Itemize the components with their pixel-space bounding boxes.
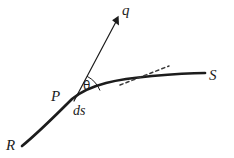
diagram-canvas [0, 0, 234, 158]
label-vector-q: q [122, 3, 130, 18]
curve-rs-path [22, 73, 205, 146]
geometry-diagram: q S P ds R θ [0, 0, 234, 158]
label-arc-length-ds: ds [73, 104, 85, 118]
label-curve-end-s: S [209, 68, 217, 83]
label-angle-theta: θ [83, 80, 90, 92]
vector-q-arrowhead-icon [112, 16, 119, 26]
label-point-p: P [51, 89, 60, 104]
vector-q-line [74, 20, 117, 102]
label-curve-start-r: R [6, 138, 15, 153]
